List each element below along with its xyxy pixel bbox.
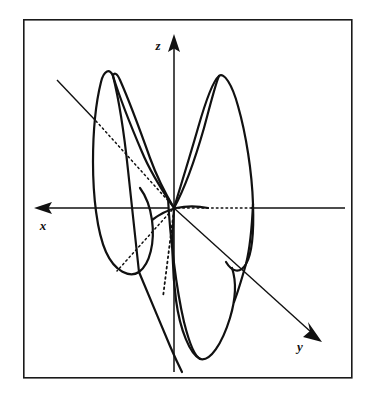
axis-y-line-upper bbox=[57, 80, 95, 120]
lobe-upper-left-lower-edge bbox=[113, 76, 139, 272]
figure-root: z x y bbox=[0, 0, 371, 397]
figure-canvas: z x y bbox=[0, 0, 371, 397]
axis-label-z: z bbox=[154, 38, 161, 53]
axis-label-x: x bbox=[39, 218, 47, 233]
axis-y-arrowhead bbox=[303, 322, 322, 342]
axis-group bbox=[34, 34, 345, 372]
orbital-lobe-group bbox=[93, 71, 253, 372]
axis-label-y: y bbox=[295, 339, 303, 354]
lobe-lower-outer bbox=[173, 208, 235, 359]
lobe-upper-left-inner bbox=[113, 74, 174, 208]
lobe-upper-left-outer bbox=[93, 71, 174, 274]
lobe-upper-right-outer bbox=[174, 75, 253, 270]
hidden-line-negative-y bbox=[117, 210, 172, 271]
